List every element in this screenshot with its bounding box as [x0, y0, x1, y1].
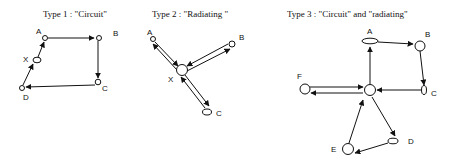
type1-label-c: C: [102, 84, 108, 93]
type2-label-b: B: [239, 33, 244, 42]
node-d: [20, 86, 25, 91]
node-c: [422, 86, 427, 95]
diagram-canvas: [0, 0, 459, 165]
type2-label-x: X: [168, 75, 173, 84]
node-f: [300, 84, 310, 94]
type2-label-c: C: [216, 109, 222, 118]
node-center: [365, 85, 376, 96]
node-a: [362, 38, 378, 44]
type2-label-a: A: [147, 28, 152, 37]
type3-label-c: C: [431, 89, 437, 98]
node-x: [177, 65, 188, 76]
node-b: [229, 41, 235, 47]
type1-label-a: A: [36, 27, 41, 36]
type3-label-d: D: [408, 137, 414, 146]
node-x: [33, 57, 41, 63]
type3-label-f: F: [297, 72, 302, 81]
type2-radiating: [151, 37, 236, 116]
node-c: [203, 109, 212, 115]
type3-label-b: B: [425, 30, 430, 39]
node-b: [97, 36, 102, 41]
type3-label-a: A: [367, 27, 372, 36]
node-a: [151, 37, 156, 42]
node-a: [43, 36, 48, 41]
type1-label-x: X: [23, 55, 28, 64]
node-b: [415, 41, 425, 51]
type1-circuit: [20, 36, 102, 91]
node-d: [388, 138, 398, 144]
type3-label-e: E: [331, 145, 336, 154]
node-e: [343, 144, 354, 155]
type1-label-b: B: [113, 29, 118, 38]
type1-label-d: D: [23, 93, 29, 102]
node-c: [95, 79, 101, 85]
